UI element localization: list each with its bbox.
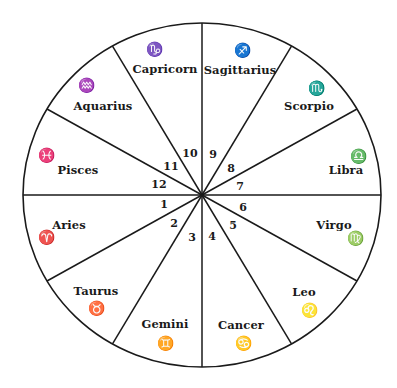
gemini-icon: ♊ [157, 336, 174, 350]
house-divider-line [202, 109, 357, 195]
taurus-icon: ♉ [88, 301, 105, 315]
aries-icon: ♈ [38, 230, 55, 244]
house-number-5: 5 [229, 219, 237, 232]
house-divider-line [47, 109, 202, 195]
sign-label-sagittarius: Sagittarius [204, 63, 277, 77]
scorpio-icon: ♏ [308, 81, 325, 95]
aquarius-icon: ♒ [78, 78, 95, 92]
sign-label-pisces: Pisces [58, 163, 99, 177]
sign-label-scorpio: Scorpio [284, 99, 334, 113]
leo-icon: ♌ [301, 303, 318, 317]
house-number-6: 6 [239, 201, 247, 214]
sign-label-capricorn: Capricorn [132, 62, 197, 76]
house-divider-line [202, 195, 357, 281]
house-number-8: 8 [227, 162, 235, 175]
house-dividers [23, 23, 381, 367]
libra-icon: ♎ [350, 149, 367, 163]
house-number-11: 11 [163, 160, 178, 173]
sign-label-aries: Aries [52, 218, 86, 232]
house-number-3: 3 [188, 231, 196, 244]
sagittarius-icon: ♐ [234, 43, 251, 57]
pisces-icon: ♓ [38, 148, 55, 162]
house-number-2: 2 [170, 217, 178, 230]
house-number-10: 10 [182, 147, 197, 160]
house-number-12: 12 [151, 178, 166, 191]
house-divider-line [47, 195, 202, 281]
house-number-1: 1 [160, 198, 168, 211]
sign-label-leo: Leo [292, 285, 315, 299]
sign-label-aquarius: Aquarius [74, 99, 133, 113]
house-number-7: 7 [236, 180, 244, 193]
house-number-4: 4 [208, 230, 216, 243]
virgo-icon: ♍ [347, 231, 364, 245]
sign-label-cancer: Cancer [218, 318, 264, 332]
house-number-9: 9 [209, 148, 217, 161]
cancer-icon: ♋ [235, 336, 252, 350]
sign-label-taurus: Taurus [74, 284, 119, 298]
sign-label-libra: Libra [329, 163, 364, 177]
zodiac-wheel [0, 0, 397, 388]
sign-label-gemini: Gemini [141, 317, 188, 331]
capricorn-icon: ♑ [146, 42, 163, 56]
